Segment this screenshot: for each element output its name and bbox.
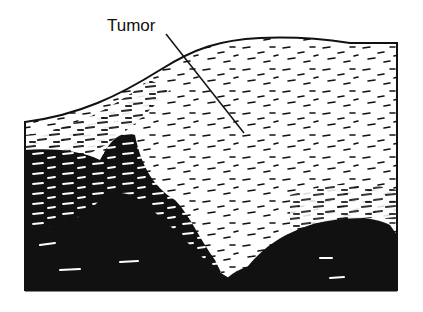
tissue-illustration (0, 0, 423, 312)
figure-canvas: Tumor (0, 0, 423, 312)
tumor-label: Tumor (107, 17, 156, 34)
tissue-fill (0, 0, 423, 312)
